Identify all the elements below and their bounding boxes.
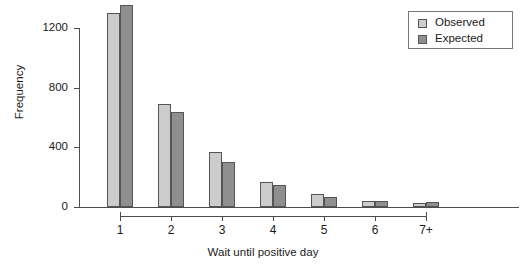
bar-observed-5 [311, 194, 324, 207]
x-rail-cap [120, 212, 121, 217]
legend-item-expected: Expected [418, 32, 512, 46]
x-rail-cap [426, 212, 427, 217]
x-tick-label: 4 [253, 224, 293, 236]
chart-legend: Observed Expected [408, 11, 513, 49]
x-tick [273, 216, 274, 221]
x-tick [324, 216, 325, 221]
bar-chart-figure: Frequency 04008001200 1234567+ Wait unti… [0, 0, 526, 268]
x-tick-label: 6 [355, 224, 395, 236]
x-axis-line [79, 207, 519, 208]
x-tick-label: 5 [304, 224, 344, 236]
x-tick [222, 216, 223, 221]
x-tick [375, 216, 376, 221]
bar-observed-3 [209, 152, 222, 207]
expected-swatch-icon [418, 35, 427, 44]
x-tick-label: 2 [151, 224, 191, 236]
bar-expected-3 [222, 162, 235, 207]
x-tick-label: 1 [100, 224, 140, 236]
x-tick-label: 3 [202, 224, 242, 236]
x-tick-label: 7+ [406, 224, 446, 236]
bar-expected-4 [273, 185, 286, 207]
legend-item-observed: Observed [418, 16, 512, 30]
bar-observed-1 [107, 13, 120, 207]
x-axis-title: Wait until positive day [0, 246, 526, 258]
legend-label-observed: Observed [435, 17, 485, 29]
bar-expected-5 [324, 197, 337, 207]
legend-label-expected: Expected [435, 33, 483, 45]
bar-expected-1 [120, 5, 133, 207]
x-tick [171, 216, 172, 221]
bar-observed-2 [158, 104, 171, 207]
observed-swatch-icon [418, 19, 427, 28]
bar-expected-2 [171, 112, 184, 207]
bar-observed-4 [260, 182, 273, 207]
